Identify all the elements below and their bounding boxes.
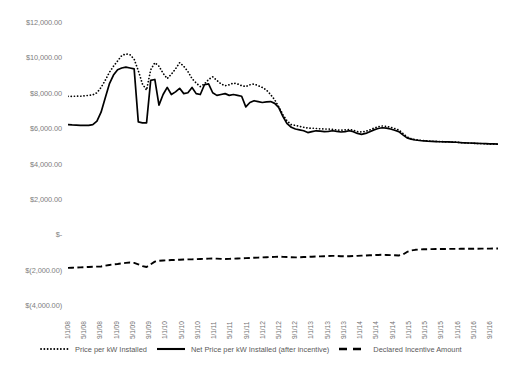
x-tick-label: 1/1/11 [210, 322, 217, 339]
chart-legend: Price per kW Installed Net Price per kW … [40, 341, 480, 357]
x-tick-label: 5/1/11 [226, 322, 233, 339]
chart-container: $12,000.00$10,000.00$8,000.00$6,000.00$4… [0, 0, 508, 376]
x-tick-label: 5/1/09 [129, 321, 136, 339]
legend-item-declared-incentive-amount: Declared Incentive Amount [338, 345, 461, 354]
x-tick-label: 9/1/10 [194, 321, 201, 339]
x-tick-label: 5/1/08 [80, 321, 87, 339]
x-tick-label: 9/1/14 [389, 321, 396, 339]
y-tick-label: $8,000.00 [30, 88, 62, 97]
x-tick-label: 9/1/15 [437, 321, 444, 339]
chart-svg [68, 22, 498, 305]
x-tick-label: 1/1/10 [161, 321, 168, 339]
x-axis: 1/1/085/1/089/1/081/1/095/1/099/1/091/1/… [68, 303, 498, 339]
legend-label-net-price-per-kw-installed: Net Price per kW Installed (after incent… [191, 345, 329, 354]
legend-item-price-per-kw-installed: Price per kW Installed [40, 345, 147, 354]
x-tick-label: 9/1/09 [145, 321, 152, 339]
x-tick-label: 1/1/13 [307, 321, 314, 339]
x-tick-label: 9/1/08 [96, 321, 103, 339]
y-tick-label: $10,000.00 [26, 53, 62, 62]
x-tick-label: 5/1/15 [421, 321, 428, 339]
y-tick-label: $2,000.00 [30, 194, 62, 203]
y-tick-label: $4,000.00 [30, 159, 62, 168]
x-tick-label: 5/1/14 [372, 321, 379, 339]
y-tick-label: $- [56, 230, 62, 239]
y-tick-label: $12,000.00 [26, 18, 62, 27]
series-net-price-per-kw-installed [68, 67, 498, 144]
x-tick-label: 1/1/16 [454, 321, 461, 339]
legend-swatch-dotted [40, 345, 70, 353]
x-tick-label: 9/1/12 [291, 321, 298, 339]
legend-swatch-solid [156, 345, 186, 353]
x-tick-label: 1/1/12 [259, 321, 266, 339]
plot-area [68, 22, 498, 305]
legend-label-declared-incentive-amount: Declared Incentive Amount [373, 345, 461, 354]
y-axis: $12,000.00$10,000.00$8,000.00$6,000.00$4… [0, 0, 66, 310]
series-declared-incentive-amount [68, 249, 498, 268]
y-tick-label: $(4,000.00) [25, 301, 62, 310]
x-tick-label: 9/1/11 [243, 322, 250, 339]
x-tick-label: 5/1/12 [275, 321, 282, 339]
x-tick-label: 5/1/10 [178, 321, 185, 339]
x-tick-label: 1/1/14 [356, 321, 363, 339]
legend-swatch-dashed [338, 345, 368, 353]
x-tick-label: 5/1/13 [324, 321, 331, 339]
x-tick-label: 5/1/16 [470, 321, 477, 339]
legend-item-net-price-per-kw-installed: Net Price per kW Installed (after incent… [156, 345, 329, 354]
legend-label-price-per-kw-installed: Price per kW Installed [75, 345, 147, 354]
y-tick-label: $(2,000.00) [25, 265, 62, 274]
x-tick-label: 1/1/08 [64, 321, 71, 339]
series-price-per-kw-installed [68, 54, 498, 144]
x-tick-label: 9/1/16 [486, 321, 493, 339]
x-tick-label: 1/1/09 [113, 321, 120, 339]
y-tick-label: $6,000.00 [30, 124, 62, 133]
x-tick-label: 9/1/13 [340, 321, 347, 339]
x-tick-label: 1/1/15 [405, 321, 412, 339]
